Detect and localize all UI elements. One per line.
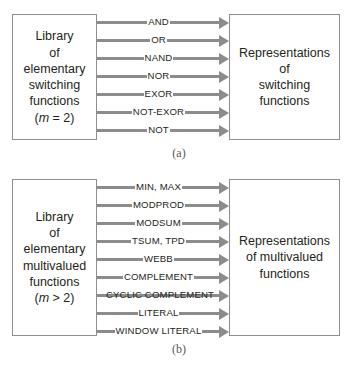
panel-b-left-box-line-1: of — [15, 225, 94, 241]
panel-a-arrow-label: EXOR — [97, 86, 220, 102]
panel-b-arrow-literal: LITERAL — [97, 306, 229, 322]
arrow-head-icon — [219, 71, 229, 83]
panel-b-arrow-min-max: MIN, MAX — [97, 180, 229, 196]
panel-a-arrow-label: NOR — [97, 68, 220, 84]
arrow-head-icon — [219, 236, 229, 248]
arrow-head-icon — [219, 272, 229, 284]
panel-b-arrow-tsum-tpd: TSUM, TPD — [97, 234, 229, 250]
panel-b-arrow-label: WEBB — [97, 251, 220, 267]
panel-a-parameter: (m = 2) — [15, 110, 94, 126]
panel-b-arrow-label: LITERAL — [97, 305, 220, 321]
panel-b-right-box-line-2: functions — [232, 266, 337, 282]
panel-b-arrow-cyclic-complement: CYCLIC COMPLEMENT — [97, 288, 229, 304]
panel-b-right-box-line-0: Representations — [232, 233, 337, 249]
panel-a-left-box: Library of elementary switching function… — [12, 14, 97, 140]
panel-b-arrow-label: WINDOW LITERAL — [97, 323, 220, 339]
panel-a: Library of elementary switching function… — [0, 0, 358, 170]
panel-b-right-box-line-1: of multivalued — [232, 249, 337, 265]
panel-b-arrow-label: COMPLEMENT — [97, 269, 220, 285]
panel-b-left-box: Library of elementary multivalued functi… — [12, 179, 97, 336]
panel-b-parameter-rest: > 2) — [49, 291, 74, 305]
panel-a-parameter-symbol: m — [39, 111, 49, 125]
arrow-head-icon — [219, 200, 229, 212]
panel-a-left-box-line-4: functions — [15, 93, 94, 109]
panel-b-arrow-label: CYCLIC COMPLEMENT — [87, 287, 233, 303]
panel-a-arrow-label: OR — [97, 32, 220, 48]
panel-a-arrow-not-exor: NOT-EXOR — [97, 105, 229, 121]
panel-b-arrow-label: MODSUM — [97, 215, 220, 231]
panel-a-arrow-nand: NAND — [97, 51, 229, 67]
panel-b-parameter: (m > 2) — [15, 290, 94, 306]
panel-b-left-box-line-0: Library — [15, 209, 94, 225]
panel-b-arrow-modprod: MODPROD — [97, 198, 229, 214]
panel-b-arrow-label: TSUM, TPD — [97, 233, 220, 249]
panel-a-arrow-exor: EXOR — [97, 87, 229, 103]
arrow-head-icon — [219, 308, 229, 320]
arrow-head-icon — [219, 53, 229, 65]
panel-b-arrow-complement: COMPLEMENT — [97, 270, 229, 286]
panel-a-right-box-line-3: functions — [232, 93, 337, 109]
panel-a-arrow-and: AND — [97, 15, 229, 31]
arrow-head-icon — [219, 17, 229, 29]
panel-a-left-box-line-1: of — [15, 45, 94, 61]
panel-a-right-box-line-2: switching — [232, 77, 337, 93]
panel-b: Library of elementary multivalued functi… — [0, 168, 358, 371]
arrow-head-icon — [219, 218, 229, 230]
panel-b-arrow-window-literal: WINDOW LITERAL — [97, 324, 229, 340]
arrow-head-icon — [219, 254, 229, 266]
panel-b-left-box-line-3: multivalued — [15, 258, 94, 274]
panel-a-arrow-label: NAND — [97, 50, 220, 66]
panel-a-left-box-line-2: elementary — [15, 61, 94, 77]
panel-a-parameter-rest: = 2) — [49, 111, 74, 125]
arrow-head-icon — [219, 326, 229, 338]
panel-a-arrow-or: OR — [97, 33, 229, 49]
arrow-head-icon — [219, 125, 229, 137]
panel-b-arrow-webb: WEBB — [97, 252, 229, 268]
arrow-head-icon — [219, 107, 229, 119]
panel-a-arrow-label: NOT — [97, 122, 220, 138]
panel-a-left-box-line-3: switching — [15, 77, 94, 93]
panel-a-right-box: Representations of switching functions — [229, 14, 340, 140]
panel-a-left-box-line-0: Library — [15, 28, 94, 44]
panel-a-right-box-line-1: of — [232, 61, 337, 77]
panel-a-arrow-not: NOT — [97, 123, 229, 139]
panel-a-right-box-line-0: Representations — [232, 45, 337, 61]
panel-b-left-box-line-2: elementary — [15, 241, 94, 257]
panel-a-caption: (a) — [0, 146, 358, 161]
panel-b-arrow-modsum: MODSUM — [97, 216, 229, 232]
panel-a-arrow-label: NOT-EXOR — [97, 104, 220, 120]
panel-a-arrow-nor: NOR — [97, 69, 229, 85]
panel-b-right-box: Representations of multivalued functions — [229, 179, 340, 336]
panel-b-arrow-label: MODPROD — [97, 197, 220, 213]
panel-b-left-box-line-4: functions — [15, 274, 94, 290]
panel-b-parameter-symbol: m — [39, 291, 49, 305]
arrow-head-icon — [219, 35, 229, 47]
panel-b-arrow-label: MIN, MAX — [97, 179, 220, 195]
panel-a-arrow-label: AND — [97, 14, 220, 30]
panel-b-caption: (b) — [0, 342, 358, 357]
arrow-head-icon — [219, 182, 229, 194]
arrow-head-icon — [219, 89, 229, 101]
